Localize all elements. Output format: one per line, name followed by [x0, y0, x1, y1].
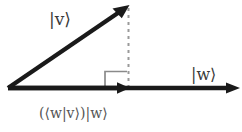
vector-projection-diagram: |v⟩ |w⟩ (⟨w|v⟩)|w⟩ [0, 0, 242, 132]
label-vector-v: |v⟩ [49, 11, 71, 28]
label-vector-w: |w⟩ [191, 67, 216, 83]
label-projection-expression: (⟨w|v⟩)|w⟩ [39, 106, 108, 120]
projection-vector-arrow [8, 82, 130, 94]
